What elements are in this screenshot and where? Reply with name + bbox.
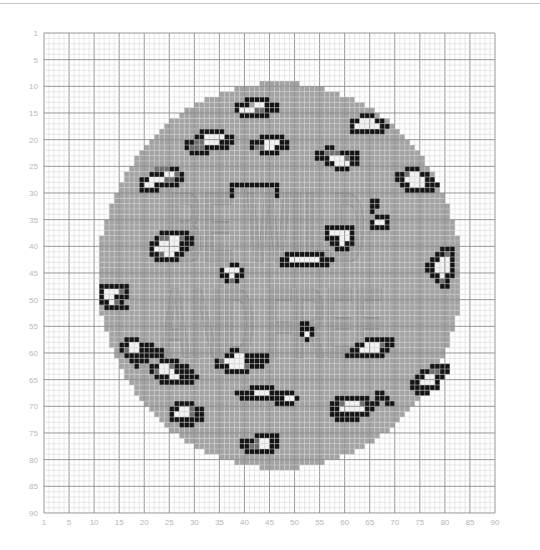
chart-text-line: AND FREE — [159, 267, 383, 379]
x-tick-label: 5 — [67, 518, 72, 527]
grid-lines — [44, 33, 495, 513]
y-tick-label: 20 — [29, 136, 38, 145]
x-tick-label: 15 — [115, 518, 124, 527]
y-tick-label: 25 — [29, 162, 38, 171]
y-tick-label: 30 — [29, 189, 38, 198]
x-tick-label: 75 — [415, 518, 424, 527]
y-tick-label: 35 — [29, 216, 38, 225]
x-tick-label: 65 — [365, 518, 374, 527]
y-tick-label: 80 — [29, 456, 38, 465]
y-tick-label: 75 — [29, 429, 38, 438]
x-tick-label: 55 — [315, 518, 324, 527]
x-tick-label: 35 — [215, 518, 224, 527]
x-tick-label: 40 — [240, 518, 249, 527]
y-tick-label: 10 — [29, 82, 38, 91]
x-axis-labels: 151015202530354045505560657075808590 — [42, 518, 500, 527]
x-tick-label: 50 — [290, 518, 299, 527]
y-tick-label: 1 — [34, 29, 39, 38]
y-tick-label: 45 — [29, 269, 38, 278]
x-tick-label: 85 — [465, 518, 474, 527]
cross-stitch-chart: BE WILDAND FREE 151015202530354045505560… — [0, 0, 540, 550]
x-tick-label: 90 — [491, 518, 500, 527]
y-tick-label: 65 — [29, 376, 38, 385]
y-axis-labels: 151015202530354045505560657075808590 — [29, 29, 38, 518]
x-tick-label: 20 — [140, 518, 149, 527]
x-tick-label: 80 — [440, 518, 449, 527]
y-tick-label: 85 — [29, 482, 38, 491]
x-tick-label: 30 — [190, 518, 199, 527]
y-tick-label: 15 — [29, 109, 38, 118]
y-tick-label: 70 — [29, 402, 38, 411]
x-tick-label: 60 — [340, 518, 349, 527]
y-tick-label: 50 — [29, 296, 38, 305]
y-tick-label: 40 — [29, 242, 38, 251]
y-tick-label: 60 — [29, 349, 38, 358]
x-tick-label: 45 — [265, 518, 274, 527]
x-tick-label: 10 — [90, 518, 99, 527]
y-tick-label: 5 — [34, 56, 39, 65]
y-tick-label: 90 — [29, 509, 38, 518]
x-tick-label: 70 — [390, 518, 399, 527]
x-tick-label: 1 — [42, 518, 47, 527]
x-tick-label: 25 — [165, 518, 174, 527]
y-tick-label: 55 — [29, 322, 38, 331]
